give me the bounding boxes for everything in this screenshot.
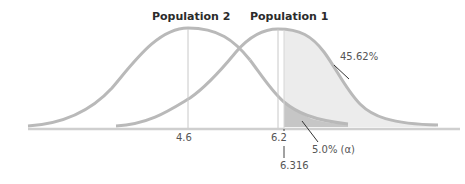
power-annotation: 45.62%	[340, 51, 378, 62]
power-diagram: Population 2 Population 1 4.6 6.2 6.316 …	[0, 0, 465, 184]
power-shaded-area	[284, 30, 436, 127]
population-1-title: Population 1	[250, 10, 328, 23]
critical-value-label: 6.316	[280, 160, 309, 171]
population-2-curve	[28, 28, 250, 126]
population-2-title: Population 2	[152, 10, 230, 23]
distribution-plot	[0, 0, 465, 184]
population-2-mean-label: 4.6	[176, 132, 192, 143]
population-1-mean-label: 6.2	[271, 132, 287, 143]
population-1-curve	[116, 29, 438, 126]
alpha-annotation: 5.0% (α)	[312, 144, 355, 155]
